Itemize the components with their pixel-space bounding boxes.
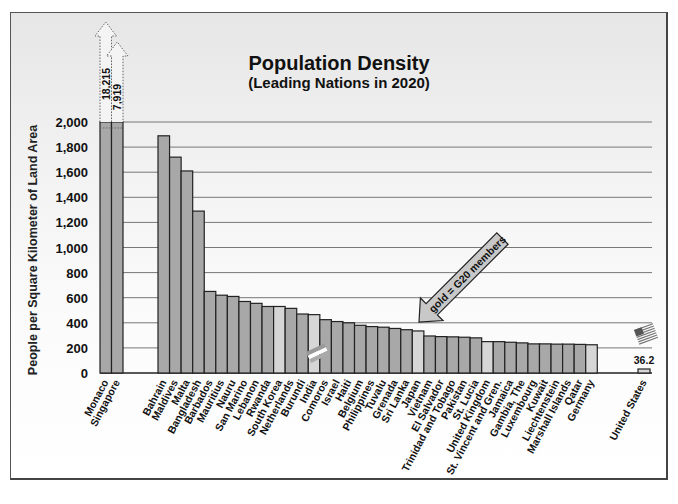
bar-sri-lanka [401, 330, 413, 373]
bar-marshall-islands [563, 344, 575, 373]
bar-japan [412, 331, 424, 373]
bar-mauritius [216, 295, 228, 373]
bar-trinidad-and-tobago [447, 337, 459, 373]
x-axis-labels: MonacoSingaporeBahrainMaldivesMaltaBangl… [81, 377, 649, 477]
bar-haiti [343, 323, 355, 373]
y-tick-label: 1,800 [55, 140, 88, 155]
x-tick-label: United States [607, 377, 649, 442]
bar-st-lucia [470, 338, 482, 373]
bar-germany [586, 345, 598, 373]
y-tick-label: 1,000 [55, 241, 88, 256]
bar-jamaica [505, 342, 517, 373]
bar-tuvalu [378, 327, 390, 373]
g20-annotation-text: gold = G20 members [426, 233, 508, 315]
bar-philippines [366, 327, 378, 373]
bar-monaco [100, 122, 112, 373]
bar-united-states [638, 369, 650, 373]
g20-annotation-arrow: gold = G20 members [408, 226, 515, 333]
bar-singapore [112, 122, 124, 373]
bar-liechtenstein [551, 344, 563, 373]
bar-barbados [204, 291, 216, 373]
bar-san-marino [239, 301, 251, 373]
bar-bangladesh [193, 211, 205, 373]
overflow-value-label: 18,215 [100, 68, 112, 100]
plot-area: 02004006008001,0001,2001,4001,6001,8002,… [0, 0, 678, 504]
bar-el-salvador [435, 337, 447, 373]
bar-burundi [297, 314, 309, 373]
bar-united-kingdom [482, 342, 494, 373]
bar-nauru [227, 296, 239, 373]
overflow-value-label: 7,919 [111, 84, 123, 110]
bar-israel [331, 322, 343, 373]
bar-netherlands [285, 308, 297, 373]
bar-qatar [574, 344, 586, 373]
bar-india [308, 315, 320, 373]
y-axis-ticks: 02004006008001,0001,2001,4001,6001,8002,… [55, 115, 88, 381]
bar-vietnam [424, 336, 436, 373]
bar-pakistan [459, 337, 471, 373]
y-tick-label: 400 [66, 316, 88, 331]
us-flag-icon [634, 323, 658, 344]
bar-maldives [170, 157, 182, 373]
y-tick-label: 1,400 [55, 190, 88, 205]
y-tick-label: 2,000 [55, 115, 88, 130]
bar-malta [181, 171, 193, 373]
y-tick-label: 800 [66, 266, 88, 281]
y-tick-label: 600 [66, 291, 88, 306]
bar-luxembourg [528, 344, 540, 373]
bar-belgium [355, 325, 367, 373]
bar-gambia-the [516, 343, 528, 373]
us-value-label: 36.2 [634, 354, 655, 366]
y-tick-label: 1,600 [55, 165, 88, 180]
y-tick-label: 0 [81, 366, 88, 381]
y-tick-label: 200 [66, 341, 88, 356]
bar-south-korea [274, 306, 286, 373]
bar-st-vincent-and-gren- [493, 342, 505, 373]
bar-bahrain [158, 136, 170, 373]
bar-rwanda [262, 306, 274, 373]
bar-kuwait [539, 344, 551, 373]
y-tick-label: 1,200 [55, 215, 88, 230]
bar-grenada [389, 328, 401, 373]
bar-lebanon [250, 303, 262, 373]
